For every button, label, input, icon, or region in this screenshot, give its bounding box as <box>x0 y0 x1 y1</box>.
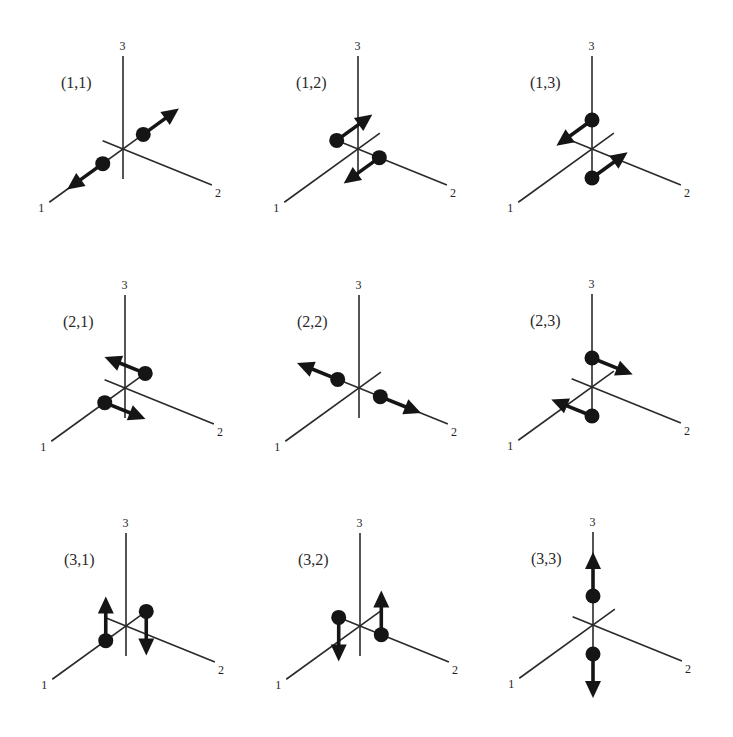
axis-2-line <box>340 618 449 662</box>
arrow-head-icon <box>160 109 179 126</box>
panel-2-3: 123(2,3) <box>507 277 690 453</box>
axis-3-label: 3 <box>123 516 129 530</box>
stress-component-figure: 123(1,1)123(1,2)123(1,3)123(2,1)123(2,2)… <box>0 0 733 737</box>
face-dot-negative <box>139 604 154 619</box>
panel-title: (1,3) <box>530 74 561 92</box>
axis-2-line <box>105 380 214 424</box>
arrow-head-icon <box>331 644 347 661</box>
face-dot-negative <box>138 366 153 381</box>
panel-1-3: 123(1,3) <box>507 39 690 215</box>
panel-title: (2,3) <box>530 312 561 330</box>
arrow-head-icon <box>373 591 389 608</box>
axis-2-label: 2 <box>451 425 457 439</box>
axis-1-label: 1 <box>508 677 514 691</box>
arrow-head-icon <box>585 552 601 569</box>
face-dot-positive <box>95 156 110 171</box>
arrow-head-icon <box>556 129 574 145</box>
axis-3-label: 3 <box>589 277 595 291</box>
face-dot-negative <box>331 610 346 625</box>
axis-1-line <box>519 609 615 678</box>
axis-1-label: 1 <box>507 439 513 453</box>
face-dot-negative <box>585 409 600 424</box>
arrow-head-icon <box>98 597 114 614</box>
panel-title: (2,2) <box>297 313 328 331</box>
panel-title: (1,2) <box>296 74 327 92</box>
axis-2-label: 2 <box>218 663 224 677</box>
face-dot-negative <box>329 133 344 148</box>
face-dot-positive <box>585 113 600 128</box>
panel-title: (1,1) <box>61 74 92 92</box>
arrow-head-icon <box>138 638 154 655</box>
axis-1-label: 1 <box>41 678 47 692</box>
arrow-head-icon <box>609 152 627 168</box>
face-dot-positive <box>372 150 387 165</box>
panel-1-2: 123(1,2) <box>273 39 456 215</box>
axis-3-label: 3 <box>355 39 361 53</box>
face-dot-positive <box>585 351 600 366</box>
axis-1-label: 1 <box>38 201 44 215</box>
axis-2-label: 2 <box>215 186 221 200</box>
axis-2-label: 2 <box>217 425 223 439</box>
axis-2-label: 2 <box>450 186 456 200</box>
face-dot-positive <box>98 633 113 648</box>
face-dot-negative <box>586 647 601 662</box>
panel-3-2: 123(3,2) <box>275 516 458 692</box>
arrow-head-icon <box>67 173 86 190</box>
panel-title: (2,1) <box>63 313 94 331</box>
panel-2-1: 123(2,1) <box>40 278 223 454</box>
axis-2-line <box>103 141 212 185</box>
axis-1-label: 1 <box>273 201 279 215</box>
face-dot-positive <box>97 395 112 410</box>
axis-1-label: 1 <box>274 440 280 454</box>
panel-2-2: 123(2,2) <box>274 278 457 454</box>
axis-3-label: 3 <box>120 39 126 53</box>
face-dot-negative <box>136 127 151 142</box>
panel-1-1: 123(1,1) <box>38 39 221 215</box>
face-dot-positive <box>374 627 389 642</box>
axis-3-label: 3 <box>356 278 362 292</box>
axis-2-label: 2 <box>685 662 691 676</box>
axis-2-label: 2 <box>684 186 690 200</box>
panel-3-1: 123(3,1) <box>41 516 224 692</box>
axis-2-label: 2 <box>452 663 458 677</box>
panel-title: (3,1) <box>64 551 95 569</box>
axis-2-label: 2 <box>684 424 690 438</box>
axis-3-label: 3 <box>589 39 595 53</box>
axis-3-label: 3 <box>357 516 363 530</box>
axis-2-line <box>106 618 215 662</box>
panel-3-3: 123(3,3) <box>508 515 691 698</box>
axis-1-label: 1 <box>507 201 513 215</box>
face-dot-positive <box>373 389 388 404</box>
arrow-head-icon <box>585 681 601 698</box>
face-dot-positive <box>586 589 601 604</box>
axis-3-label: 3 <box>590 515 596 529</box>
axis-3-label: 3 <box>122 278 128 292</box>
arrow-head-icon <box>354 115 372 132</box>
arrow-head-icon <box>344 167 362 184</box>
panel-title: (3,3) <box>531 550 562 568</box>
axis-1-label: 1 <box>275 678 281 692</box>
face-dot-negative <box>585 171 600 186</box>
axis-1-label: 1 <box>40 440 46 454</box>
panel-title: (3,2) <box>298 551 329 569</box>
face-dot-negative <box>330 372 345 387</box>
